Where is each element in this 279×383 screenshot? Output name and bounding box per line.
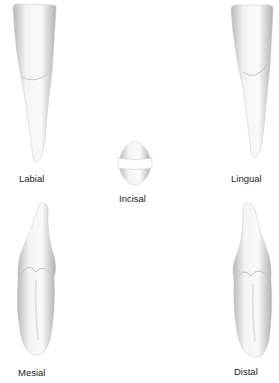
labial-view [8, 2, 58, 167]
tooth-mesial-illustration [14, 200, 62, 358]
tooth-labial-illustration [8, 2, 58, 167]
label-labial: Labial [19, 173, 44, 184]
distal-view [227, 200, 275, 360]
mesial-view [14, 200, 62, 358]
tooth-lingual-illustration [228, 2, 278, 162]
incisal-view [115, 139, 155, 187]
label-distal: Distal [234, 366, 258, 377]
tooth-incisal-illustration [115, 139, 155, 187]
tooth-distal-illustration [227, 200, 275, 360]
label-mesial: Mesial [18, 367, 45, 378]
label-lingual: Lingual [231, 173, 262, 184]
lingual-view [228, 2, 278, 162]
label-incisal: Incisal [119, 193, 146, 204]
